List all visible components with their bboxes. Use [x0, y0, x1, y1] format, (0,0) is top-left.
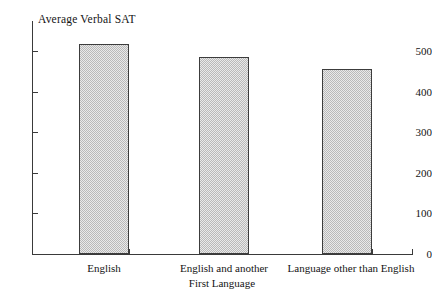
y-axis-tick — [33, 254, 38, 255]
category-label: English and another — [164, 262, 284, 275]
x-axis-tick — [372, 249, 373, 255]
y-axis-line — [32, 21, 33, 255]
y-axis-tick — [33, 92, 38, 93]
bar — [199, 57, 249, 254]
category-label: Language other than English — [276, 262, 426, 275]
chart-title: Average Verbal SAT — [38, 13, 136, 25]
y-axis-tick-label: 500 — [406, 46, 432, 57]
y-axis-tick-label: 200 — [406, 168, 432, 179]
y-axis-tick-label: 100 — [406, 208, 432, 219]
y-axis-tick-label: 0 — [406, 249, 432, 260]
bar — [79, 44, 129, 254]
x-axis-line — [32, 254, 413, 255]
x-axis-title: First Language — [152, 277, 292, 290]
y-axis-tick-label: 300 — [406, 127, 432, 138]
bar-chart: Average Verbal SAT 0100200300400500 Engl… — [0, 0, 432, 305]
x-axis-tick — [32, 249, 33, 255]
category-label: English — [44, 262, 164, 275]
x-axis-tick — [129, 249, 130, 255]
y-axis-tick — [33, 132, 38, 133]
y-axis-tick — [33, 51, 38, 52]
x-axis-tick — [412, 249, 413, 255]
y-axis-tick — [33, 173, 38, 174]
y-axis-tick-label: 400 — [406, 87, 432, 98]
bar — [322, 69, 372, 254]
y-axis-tick — [33, 213, 38, 214]
